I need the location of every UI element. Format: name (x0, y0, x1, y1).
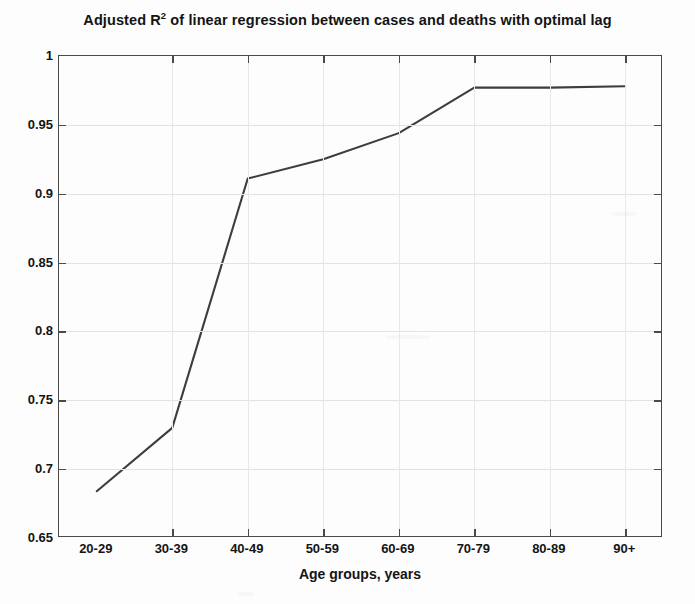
x-axis-tick (172, 529, 173, 536)
x-axis-tick (323, 56, 324, 63)
y-axis-tick-label: 0.75 (5, 392, 53, 407)
x-axis-tick (625, 56, 626, 63)
x-axis-tick-label: 30-39 (155, 541, 188, 556)
gridline-horizontal (59, 469, 661, 470)
x-axis-tick (323, 529, 324, 536)
chart-title-suffix: of linear regression between cases and d… (166, 12, 611, 28)
chart-figure: Adjusted R2 of linear regression between… (0, 0, 695, 604)
gridline-vertical (625, 56, 626, 536)
x-axis-title: Age groups, years (58, 566, 662, 582)
x-axis-tick (248, 529, 249, 536)
gridline-horizontal (59, 331, 661, 332)
y-axis-tick (654, 125, 661, 126)
chart-title-prefix: Adjusted R (83, 12, 161, 28)
gridline-horizontal (59, 263, 661, 264)
y-axis-tick (654, 194, 661, 195)
y-axis-tick (654, 263, 661, 264)
x-axis-tick-label: 70-79 (457, 541, 490, 556)
data-series-line (59, 56, 663, 538)
x-axis-tick-label: 20-29 (79, 541, 112, 556)
gridline-vertical (172, 56, 173, 536)
x-axis-tick (172, 56, 173, 63)
x-axis-tick (399, 56, 400, 63)
x-axis-tick (474, 529, 475, 536)
gridline-vertical (248, 56, 249, 536)
gridline-vertical (323, 56, 324, 536)
y-axis-tick-label: 0.7 (5, 461, 53, 476)
scan-artifact (238, 592, 254, 596)
gridline-vertical (399, 56, 400, 536)
y-axis-tick-labels: 0.650.70.750.80.850.90.951 (0, 55, 53, 537)
gridline-horizontal (59, 194, 661, 195)
y-axis-tick (654, 400, 661, 401)
y-axis-tick (654, 331, 661, 332)
x-axis-tick-labels: 20-2930-3940-4950-5960-6970-7980-8990+ (58, 541, 662, 563)
plot-area (58, 55, 662, 537)
y-axis-tick (654, 469, 661, 470)
y-axis-tick-label: 0.8 (5, 323, 53, 338)
x-axis-tick (399, 529, 400, 536)
gridline-vertical (474, 56, 475, 536)
x-axis-tick (248, 56, 249, 63)
x-axis-tick (625, 529, 626, 536)
y-axis-tick-label: 0.9 (5, 185, 53, 200)
y-axis-tick (59, 125, 66, 126)
x-axis-tick-label: 90+ (613, 541, 635, 556)
x-axis-tick (550, 56, 551, 63)
gridline-horizontal (59, 125, 661, 126)
y-axis-tick-label: 0.85 (5, 254, 53, 269)
y-axis-tick (59, 263, 66, 264)
x-axis-tick-label: 60-69 (381, 541, 414, 556)
gridline-vertical (550, 56, 551, 536)
x-axis-tick-label: 50-59 (306, 541, 339, 556)
x-axis-tick-label: 40-49 (230, 541, 263, 556)
chart-title: Adjusted R2 of linear regression between… (0, 10, 695, 28)
y-axis-tick-label: 1 (5, 48, 53, 63)
gridline-horizontal (59, 400, 661, 401)
y-axis-tick-label: 0.95 (5, 116, 53, 131)
y-axis-tick (59, 331, 66, 332)
x-axis-tick (550, 529, 551, 536)
y-axis-tick (59, 400, 66, 401)
y-axis-tick-label: 0.65 (5, 530, 53, 545)
y-axis-tick (59, 194, 66, 195)
x-axis-tick-label: 80-89 (532, 541, 565, 556)
x-axis-tick (474, 56, 475, 63)
y-axis-tick (59, 469, 66, 470)
